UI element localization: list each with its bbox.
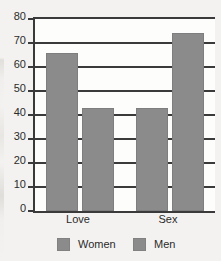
y-axis-tick [28,18,33,20]
bar [136,108,168,211]
legend-swatch [57,238,70,251]
y-axis-tick-label: 30 [2,131,26,142]
y-axis-tick [28,42,33,44]
y-axis-tick [28,186,33,188]
y-axis-tick-label: 80 [2,11,26,22]
y-axis-tick-label: 20 [2,155,26,166]
bar [46,53,78,211]
y-axis-tick [28,162,33,164]
y-axis-tick [28,90,33,92]
chart-legend: WomenMen [33,235,213,255]
plot-area [33,17,215,213]
legend-label: Women [78,238,116,250]
bar [82,108,114,211]
x-axis-tick-label: Sex [123,213,213,226]
legend-entry: Women [57,235,116,253]
y-axis-tick [28,210,33,212]
y-axis-labels: 80706050403020100 [0,17,26,209]
y-axis-tick-label: 60 [2,59,26,70]
y-axis-tick-label: 10 [2,179,26,190]
bar-chart-figure: 80706050403020100 LoveSex WomenMen [0,0,221,261]
legend-entry: Men [133,235,175,253]
y-axis-tick [28,66,33,68]
x-axis-tick-label: Love [33,213,123,226]
y-axis-tick-label: 70 [2,35,26,46]
bar [172,33,204,211]
legend-label: Men [154,238,175,250]
legend-swatch [133,238,146,251]
y-axis-tick-label: 40 [2,107,26,118]
y-axis-tick [28,138,33,140]
y-axis-tick-label: 0 [2,203,26,214]
y-axis-tick [28,114,33,116]
y-axis-tick-label: 50 [2,83,26,94]
